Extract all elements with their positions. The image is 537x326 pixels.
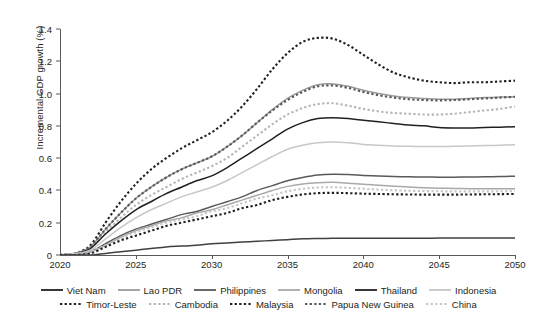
x-tick-mark	[515, 255, 516, 259]
incremental-gdp-growth-chart: Incremental GDP growth (%) 00.20.40.60.8…	[0, 0, 537, 326]
legend-item-philippines[interactable]: Philippines	[194, 285, 266, 296]
x-tick-mark	[212, 255, 213, 259]
series-line-mongolia	[60, 85, 515, 255]
legend-swatch-icon	[355, 285, 377, 295]
legend-item-viet-nam[interactable]: Viet Nam	[41, 285, 106, 296]
x-tick-mark	[136, 255, 137, 259]
legend-label: China	[452, 299, 477, 310]
legend-swatch-icon	[194, 285, 216, 295]
legend-row: Timor-LesteCambodiaMalaysiaPapua New Gui…	[0, 297, 537, 311]
legend-label: Philippines	[220, 285, 266, 296]
x-tick-label: 2020	[49, 259, 70, 270]
legend-label: Timor-Leste	[86, 299, 136, 310]
legend-item-china[interactable]: China	[426, 299, 477, 310]
legend-item-timor-leste[interactable]: Timor-Leste	[60, 299, 136, 310]
y-tick-label: 0.8	[18, 120, 52, 131]
legend-row: Viet NamLao PDRPhilippinesMongoliaThaila…	[0, 283, 537, 297]
legend-label: Lao PDR	[144, 285, 183, 296]
legend-label: Indonesia	[455, 285, 496, 296]
legend-item-papua-new-guinea[interactable]: Papua New Guinea	[305, 299, 413, 310]
legend-swatch-icon	[426, 299, 448, 309]
chart-legend: Viet NamLao PDRPhilippinesMongoliaThaila…	[0, 283, 537, 311]
y-tick-label: 0.2	[18, 217, 52, 228]
series-line-malaysia	[60, 193, 515, 255]
x-tick-label: 2030	[201, 259, 222, 270]
legend-item-lao-pdr[interactable]: Lao PDR	[118, 285, 183, 296]
x-tick-label: 2040	[353, 259, 374, 270]
legend-label: Viet Nam	[67, 285, 106, 296]
x-tick-mark	[288, 255, 289, 259]
legend-swatch-icon	[278, 285, 300, 295]
y-tick-label: 0.4	[18, 185, 52, 196]
legend-item-indonesia[interactable]: Indonesia	[429, 285, 496, 296]
legend-swatch-icon	[41, 285, 63, 295]
legend-swatch-icon	[230, 299, 252, 309]
legend-swatch-icon	[149, 299, 171, 309]
legend-swatch-icon	[118, 285, 140, 295]
legend-swatch-icon	[429, 285, 451, 295]
legend-swatch-icon	[60, 299, 82, 309]
legend-item-mongolia[interactable]: Mongolia	[278, 285, 343, 296]
x-tick-label: 2035	[277, 259, 298, 270]
x-tick-label: 2050	[504, 259, 525, 270]
legend-label: Thailand	[381, 285, 417, 296]
legend-item-cambodia[interactable]: Cambodia	[149, 299, 218, 310]
legend-swatch-icon	[305, 299, 327, 309]
legend-item-thailand[interactable]: Thailand	[355, 285, 417, 296]
y-tick-label: 1.0	[18, 88, 52, 99]
series-line-papua-new-guinea	[60, 238, 515, 255]
y-tick-label: 0	[18, 250, 52, 261]
x-tick-mark	[363, 255, 364, 259]
legend-label: Papua New Guinea	[331, 299, 413, 310]
series-curves	[60, 29, 515, 255]
y-tick-label: 1.4	[18, 24, 52, 35]
series-line-lao-pdr	[60, 84, 515, 255]
x-tick-mark	[439, 255, 440, 259]
legend-label: Cambodia	[175, 299, 218, 310]
legend-label: Mongolia	[304, 285, 343, 296]
x-tick-label: 2025	[125, 259, 146, 270]
legend-label: Malaysia	[256, 299, 294, 310]
y-tick-label: 0.6	[18, 153, 52, 164]
legend-item-malaysia[interactable]: Malaysia	[230, 299, 294, 310]
x-tick-label: 2045	[429, 259, 450, 270]
y-tick-label: 1.2	[18, 56, 52, 67]
